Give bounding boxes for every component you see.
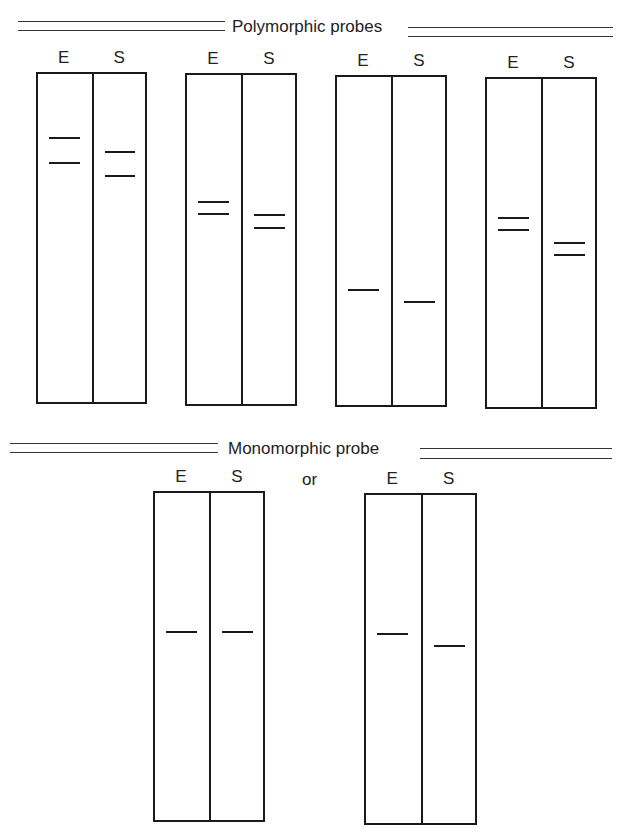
lane-divider: [391, 77, 393, 405]
lane-label-s: S: [109, 48, 129, 68]
or-separator: or: [302, 470, 317, 490]
header-rule-right-bottom: [408, 36, 613, 37]
band-s: [554, 254, 585, 256]
band-e: [49, 137, 80, 139]
header-rule-left-bottom: [18, 30, 225, 31]
gel-mono-1: [153, 491, 265, 822]
lane-divider: [541, 79, 543, 407]
lane-label-s: S: [259, 49, 279, 69]
lane-label-s: S: [227, 467, 247, 487]
header-rule-right-bottom: [420, 458, 612, 459]
lane-divider: [421, 495, 423, 823]
lane-label-e: E: [353, 51, 373, 71]
lane-label-s: S: [409, 51, 429, 71]
band-e: [166, 631, 197, 633]
band-e: [498, 217, 529, 219]
band-s: [105, 175, 136, 177]
band-e: [498, 229, 529, 231]
gel-poly-3: [335, 75, 447, 407]
gel-poly-2: [185, 73, 297, 406]
header-rule-left-top: [18, 21, 225, 22]
band-e: [348, 289, 379, 291]
band-e: [49, 162, 80, 164]
lane-label-e: E: [171, 467, 191, 487]
gel-mono-2: [364, 493, 477, 825]
header-rule-left-bottom: [10, 452, 218, 453]
lane-label-e: E: [382, 469, 402, 489]
header-rule-right-top: [408, 27, 613, 28]
band-s: [254, 214, 285, 216]
header-rule-right-top: [420, 448, 612, 449]
band-s: [404, 301, 435, 303]
gel-poly-1: [36, 72, 147, 404]
lane-divider: [209, 493, 211, 820]
lane-label-e: E: [203, 49, 223, 69]
band-s: [254, 227, 285, 229]
band-e: [198, 213, 229, 215]
band-s: [222, 631, 253, 633]
lane-label-e: E: [503, 53, 523, 73]
band-s: [434, 645, 465, 647]
section-title-polymorphic: Polymorphic probes: [232, 17, 382, 37]
lane-label-s: S: [559, 53, 579, 73]
lane-label-s: S: [439, 469, 459, 489]
lane-divider: [241, 75, 243, 404]
band-s: [105, 151, 136, 153]
header-rule-left-top: [10, 443, 218, 444]
gel-poly-4: [485, 77, 597, 409]
band-e: [198, 201, 229, 203]
band-s: [554, 242, 585, 244]
section-title-monomorphic: Monomorphic probe: [228, 439, 379, 459]
lane-label-e: E: [54, 48, 74, 68]
band-e: [377, 633, 408, 635]
lane-divider: [92, 74, 94, 402]
